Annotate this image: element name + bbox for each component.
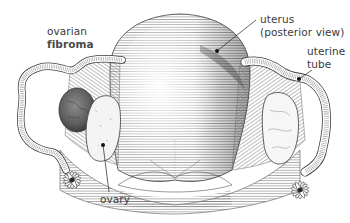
label-uterine-text: uterine	[307, 45, 345, 58]
label-ovary: ovary	[100, 193, 130, 206]
label-posterior-view-text: (posterior view)	[260, 26, 344, 39]
anatomy-figure: ovarian fibroma uterus (posterior view) …	[0, 0, 350, 223]
label-uterus: uterus (posterior view)	[260, 13, 344, 39]
label-uterus-text: uterus	[260, 13, 344, 26]
uterus	[110, 14, 250, 182]
label-fibroma-text: fibroma	[47, 38, 94, 51]
label-ovarian-text: ovarian	[47, 25, 94, 38]
label-ovarian-fibroma: ovarian fibroma	[47, 25, 94, 51]
label-uterine-tube: uterine tube	[307, 45, 345, 71]
label-tube-text: tube	[307, 58, 345, 71]
label-ovary-text: ovary	[100, 193, 130, 206]
right-ovary	[262, 92, 298, 164]
